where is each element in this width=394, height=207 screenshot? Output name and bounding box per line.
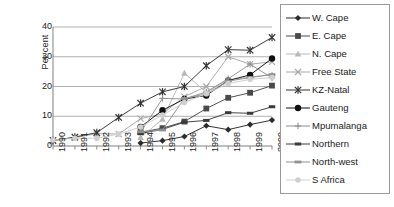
data-point xyxy=(94,135,100,141)
x-tick-label: 1993 xyxy=(123,132,133,152)
data-point xyxy=(204,91,210,97)
data-point xyxy=(225,111,231,114)
data-point xyxy=(116,131,122,137)
data-point xyxy=(181,121,187,124)
data-point xyxy=(225,127,231,133)
data-point xyxy=(269,75,275,81)
x-tick-label: 1996 xyxy=(188,132,198,152)
legend-item-gauteng[interactable]: Gauteng xyxy=(284,99,389,117)
legend-item-kz-natal[interactable]: KZ-Natal xyxy=(284,81,389,99)
legend-label: Free State xyxy=(312,67,356,77)
data-point xyxy=(295,15,301,21)
legend-marker-icon xyxy=(284,137,312,151)
data-point xyxy=(247,77,253,83)
legend-marker-icon xyxy=(284,47,312,61)
legend-marker-icon xyxy=(284,11,312,25)
data-point xyxy=(181,97,188,100)
data-point xyxy=(181,133,187,139)
legend-label: Gauteng xyxy=(312,103,348,113)
data-point xyxy=(295,123,301,129)
x-tick-label: 1991 xyxy=(79,132,89,152)
data-point xyxy=(159,95,165,101)
data-point xyxy=(50,137,56,143)
x-tick-label: 1997 xyxy=(210,132,220,152)
legend-label: W. Cape xyxy=(312,13,348,23)
legend-item-w-cape[interactable]: W. Cape xyxy=(284,9,389,27)
data-point xyxy=(203,123,209,129)
legend-marker-icon xyxy=(284,83,312,97)
legend-item-n-cape[interactable]: N. Cape xyxy=(284,45,389,63)
data-point xyxy=(203,106,209,112)
legend-label: S Africa xyxy=(312,175,345,185)
data-point xyxy=(295,161,302,164)
data-point xyxy=(269,55,275,61)
data-point xyxy=(138,140,144,146)
legend-item-s-africa[interactable]: S Africa xyxy=(284,171,389,189)
data-point xyxy=(269,117,275,123)
data-point xyxy=(225,81,231,87)
data-point xyxy=(225,95,231,101)
data-point xyxy=(269,83,275,89)
x-tick-label: 1999 xyxy=(254,132,264,152)
data-point xyxy=(159,129,166,132)
data-point xyxy=(137,99,143,107)
data-point xyxy=(295,105,301,111)
data-point xyxy=(203,119,209,122)
chart-figure: Per cent 010203040 199019911992199319941… xyxy=(0,0,394,207)
data-point xyxy=(159,138,165,144)
chart-legend: W. CapeE. CapeN. CapeFree StateKZ-NatalG… xyxy=(280,4,390,194)
legend-marker-icon xyxy=(284,155,312,169)
data-point xyxy=(159,88,165,96)
legend-item-free-state[interactable]: Free State xyxy=(284,63,389,81)
data-point xyxy=(295,33,301,39)
x-tick-label: 1992 xyxy=(101,132,111,152)
legend-item-northern[interactable]: Northern xyxy=(284,135,389,153)
legend-label: Mpumalanga xyxy=(312,121,367,131)
data-point xyxy=(269,105,275,108)
legend-marker-icon xyxy=(284,101,312,115)
data-point xyxy=(247,90,253,96)
data-point xyxy=(269,34,275,42)
legend-item-mpumalanga[interactable]: Mpumalanga xyxy=(284,117,389,135)
x-tick-label: 1998 xyxy=(232,132,242,152)
data-point xyxy=(116,114,122,122)
data-point xyxy=(182,100,188,106)
legend-item-north-west[interactable]: North-west xyxy=(284,153,389,171)
x-tick-label: 1995 xyxy=(167,132,177,152)
data-point xyxy=(247,112,253,115)
data-point xyxy=(160,112,166,118)
legend-label: E. Cape xyxy=(312,31,346,41)
data-point xyxy=(295,177,301,183)
data-point xyxy=(72,135,78,141)
legend-item-e-cape[interactable]: E. Cape xyxy=(284,27,389,45)
legend-marker-icon xyxy=(284,65,312,79)
legend-label: N. Cape xyxy=(312,49,347,59)
x-tick-label: 1990 xyxy=(57,132,67,152)
legend-label: Northern xyxy=(312,139,349,149)
chart-svg xyxy=(0,0,280,207)
data-point xyxy=(138,124,144,130)
x-tick-label: 1994 xyxy=(145,132,155,152)
data-point xyxy=(181,70,188,76)
data-point xyxy=(203,62,209,70)
legend-label: KZ-Natal xyxy=(312,85,349,95)
plot-area: Per cent 010203040 199019911992199319941… xyxy=(0,0,280,207)
legend-marker-icon xyxy=(284,119,312,133)
data-point xyxy=(295,143,301,146)
data-point xyxy=(137,130,144,133)
data-point xyxy=(247,121,253,127)
legend-marker-icon xyxy=(284,29,312,43)
legend-label: North-west xyxy=(312,157,358,167)
legend-marker-icon xyxy=(284,173,312,187)
